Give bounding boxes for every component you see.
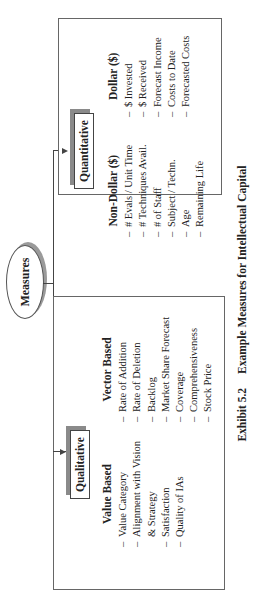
list-item: –Age	[179, 144, 193, 237]
exhibit-number: Exhibit 5.2	[236, 388, 248, 442]
qualitative-label-box: Qualitative	[70, 430, 90, 499]
exhibit-title: Example Measures for Intellectual Capita…	[236, 165, 248, 373]
measures-root-node: Measures	[6, 245, 44, 319]
list-item: –Alignment with Vision	[130, 441, 144, 547]
list-item: –Rate of Deletion	[130, 317, 144, 422]
list-item: –# Techniques Avail.	[136, 144, 150, 237]
non-dollar-column: Non-Dollar ($) –# Evals / Unit Time –# T…	[106, 144, 207, 237]
list-item: –Forecast Income	[151, 36, 165, 117]
dollar-column: Dollar ($) –$ Invested –$ Received –Fore…	[106, 36, 193, 117]
dollar-header: Dollar ($)	[106, 36, 120, 117]
list-item: –Comprehensiveness	[187, 317, 201, 422]
list-item: –Satisfaction	[159, 441, 173, 547]
list-item: –$ Received	[136, 36, 150, 117]
list-item-continuation: & Strategy	[145, 441, 159, 547]
list-item: –Value Category	[116, 441, 130, 547]
diagram-canvas: Measures Qualitative Value Based –Value …	[0, 0, 254, 607]
list-item: –# of Staff	[151, 144, 165, 237]
list-item: –$ Invested	[122, 36, 136, 117]
list-item: –Forecasted Costs	[179, 36, 193, 117]
value-based-header: Value Based	[100, 441, 114, 547]
list-item: –Coverage	[173, 317, 187, 422]
vector-based-header: Vector Based	[100, 317, 114, 422]
list-item: –Backlog	[145, 317, 159, 422]
connector-root-stem	[43, 283, 53, 284]
list-item: –Stock Price	[201, 317, 215, 422]
list-item: –Costs to Date	[165, 36, 179, 117]
list-item: –Remaining Life	[193, 144, 207, 237]
list-item: –Market Share Forecast	[159, 317, 173, 422]
list-item: –Quality of IAs	[173, 441, 187, 547]
qualitative-label: Qualitative	[74, 437, 86, 492]
list-item: –Rate of Addition	[116, 317, 130, 422]
exhibit-caption: Exhibit 5.2Example Measures for Intellec…	[236, 0, 248, 607]
measures-root-label: Measures	[18, 257, 33, 306]
quantitative-label: Quantitative	[78, 120, 90, 182]
non-dollar-header: Non-Dollar ($)	[106, 144, 120, 237]
quantitative-arrow-head-icon	[62, 148, 68, 154]
quantitative-label-box: Quantitative	[74, 113, 94, 189]
qualitative-arrow-head-icon	[60, 449, 66, 455]
vector-based-column: Vector Based –Rate of Addition –Rate of …	[100, 317, 216, 422]
value-based-column: Value Based –Value Category –Alignment w…	[100, 441, 187, 547]
list-item: –Subject / Techn.	[165, 144, 179, 237]
list-item: –# Evals / Unit Time	[122, 144, 136, 237]
